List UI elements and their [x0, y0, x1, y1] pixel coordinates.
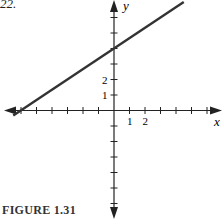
- y-axis-down-arrow-icon: [110, 207, 118, 219]
- axes: [6, 4, 218, 214]
- y-tick-label-1: 1: [102, 89, 108, 101]
- y-axis-label: y: [121, 0, 129, 13]
- plotted-line: [13, 2, 184, 116]
- y-tick-label-2: 2: [102, 74, 108, 86]
- x-axis-left-arrow-icon: [4, 107, 16, 115]
- y-axis-up-arrow-icon: [110, 0, 118, 12]
- x-tick-label-2: 2: [143, 115, 149, 127]
- figure-caption: FIGURE 1.31: [2, 203, 76, 218]
- x-axis-label: x: [213, 114, 220, 129]
- x-tick-label-1: 1: [127, 115, 133, 127]
- coordinate-plane: x y 1 2 1 2: [0, 0, 224, 222]
